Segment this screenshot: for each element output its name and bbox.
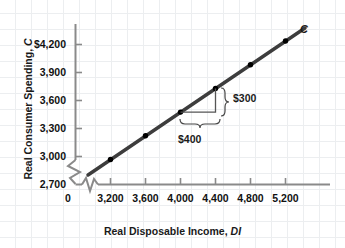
curve-label-c: C [300, 23, 308, 35]
x-axis-title-symbol: DI [231, 225, 242, 237]
data-point [143, 133, 148, 138]
data-point [248, 62, 253, 67]
y-tick-label-3000: 3,000 [8, 150, 66, 162]
consumption-function-line [88, 28, 305, 175]
run-annotation-label: $400 [178, 133, 201, 145]
consumption-function-chart: $4,200 3,900 3,600 3,300 3,000 2,700 0 3… [0, 0, 345, 248]
x-axis-title: Real Disposable Income, DI [0, 225, 345, 237]
y-tick-label-3300: 3,300 [8, 122, 66, 134]
run-brace [180, 119, 220, 128]
y-axis-title-symbol: C [22, 38, 34, 46]
data-point [108, 157, 113, 162]
y-tick-label-4200: $4,200 [8, 38, 66, 50]
x-tick-label-0: 0 [58, 192, 78, 204]
y-axis-title: Real Consumer Spending, C [22, 24, 34, 194]
y-tick-label-3600: 3,600 [8, 94, 66, 106]
data-point [283, 38, 288, 43]
y-axis-break-icon [68, 160, 80, 184]
rise-brace [221, 88, 229, 116]
y-tick-label-2700: 2,700 [8, 178, 66, 190]
y-tick-label-3900: 3,900 [8, 66, 66, 78]
x-tick-label-5200: 5,200 [263, 192, 308, 204]
y-axis-title-text: Real Consumer Spending, [22, 49, 34, 180]
x-axis-title-text: Real Disposable Income, [104, 225, 228, 237]
rise-annotation-label: $300 [233, 92, 256, 104]
x-axis-break-icon [82, 178, 98, 191]
